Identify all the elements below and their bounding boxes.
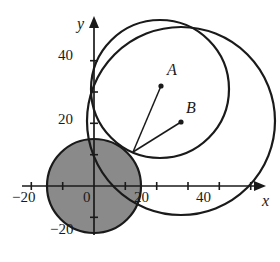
x-tick-label-40: 40	[196, 190, 211, 205]
figure-canvas	[0, 0, 280, 262]
y-tick-label-40: 40	[58, 48, 73, 63]
point-b-dot	[178, 119, 183, 124]
x-axis-label: x	[262, 193, 269, 209]
y-axis-label: y	[77, 16, 84, 32]
geometry-figure: 40 20 0 −20 −20 20 40 x y A B	[0, 0, 280, 262]
x-tick-label-20: 20	[134, 190, 149, 205]
y-tick-label-neg20: −20	[50, 222, 73, 237]
y-axis-arrow-icon	[89, 16, 99, 28]
x-axis-arrow-icon	[254, 181, 266, 191]
point-a-dot	[158, 83, 163, 88]
radius-line-a	[133, 86, 161, 152]
x-tick-label-neg20: −20	[12, 190, 35, 205]
y-tick-label-20: 20	[58, 112, 73, 127]
origin-label: 0	[83, 190, 91, 205]
point-b-label: B	[186, 100, 196, 116]
point-a-label: A	[167, 62, 177, 78]
radius-line-b	[133, 122, 181, 152]
